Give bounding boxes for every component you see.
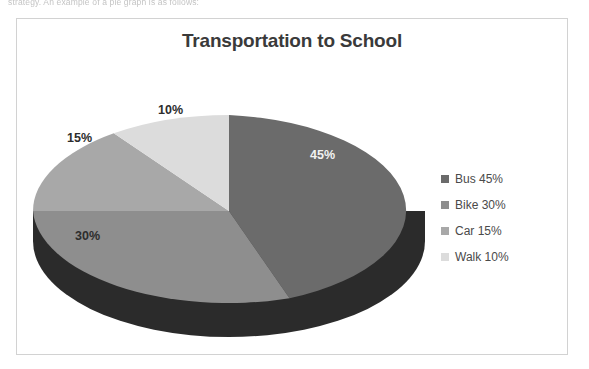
legend-label-car: Car 15% (455, 224, 502, 238)
chart-legend: Bus 45% Bike 30% Car 15% Walk 10% (441, 167, 559, 271)
legend-label-bike: Bike 30% (455, 198, 506, 212)
pie-data-label-walk: 10% (158, 103, 183, 117)
pie-data-label-bike: 30% (75, 229, 100, 243)
legend-swatch-icon-car (441, 227, 449, 235)
chart-frame: Transportation to School (16, 18, 568, 355)
legend-item-car[interactable]: Car 15% (441, 219, 559, 243)
legend-item-bus[interactable]: Bus 45% (441, 167, 559, 191)
pie-plot-area: 45% 30% 15% 10% (29, 71, 429, 339)
pie-data-label-bus: 45% (310, 148, 335, 162)
chart-title: Transportation to School (17, 30, 567, 52)
scanned-text-fragment: strategy. An example of a pie graph is a… (8, 0, 338, 9)
legend-item-bike[interactable]: Bike 30% (441, 193, 559, 217)
legend-label-walk: Walk 10% (455, 250, 509, 264)
legend-item-walk[interactable]: Walk 10% (441, 245, 559, 269)
legend-swatch-icon-bike (441, 201, 449, 209)
pie-data-label-car: 15% (67, 131, 92, 145)
pie-chart-svg (29, 71, 429, 339)
legend-label-bus: Bus 45% (455, 172, 503, 186)
legend-swatch-icon-bus (441, 175, 449, 183)
legend-swatch-icon-walk (441, 253, 449, 261)
